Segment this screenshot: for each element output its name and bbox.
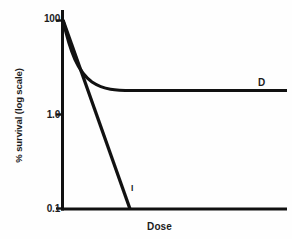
- plot-area: [0, 0, 292, 239]
- series-label-D: D: [258, 77, 265, 88]
- y-axis-title: % survival (log scale): [13, 51, 24, 181]
- series-label-I: I: [131, 183, 133, 193]
- series-line-I: [63, 20, 130, 209]
- series-line-D: [63, 20, 287, 91]
- y-tick-label-0.1: 0.1: [47, 203, 60, 214]
- y-tick-label-1.0: 1.0: [47, 109, 60, 120]
- survival-curve-figure: 100 1.0 0.1 % survival (log scale) Dose …: [0, 0, 292, 239]
- y-tick-label-100: 100: [44, 13, 60, 24]
- x-axis-title: Dose: [62, 221, 257, 232]
